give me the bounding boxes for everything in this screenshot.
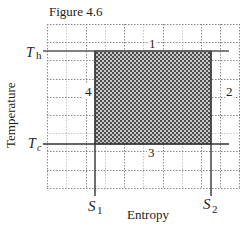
svg-text:S: S	[203, 196, 211, 212]
s2-label: S 2	[203, 196, 218, 215]
svg-text:h: h	[36, 49, 42, 61]
svg-text:T: T	[28, 136, 37, 151]
edge-label-4: 4	[85, 84, 92, 99]
svg-text:c: c	[37, 142, 42, 153]
tc-label: T c	[28, 136, 42, 153]
svg-text:2: 2	[212, 203, 218, 215]
figure-title: Figure 4.6	[49, 4, 103, 19]
x-axis-label: Entropy	[127, 207, 169, 222]
carnot-ts-diagram: Figure 4.6 Temperature Entropy T h T c S…	[0, 0, 248, 237]
svg-text:1: 1	[97, 204, 103, 216]
svg-text:T: T	[26, 45, 35, 60]
y-axis-label: Temperature	[3, 82, 18, 148]
svg-text:S: S	[88, 198, 96, 214]
edge-label-3: 3	[148, 145, 155, 160]
edge-label-2: 2	[226, 84, 233, 99]
s1-label: S 1	[88, 198, 103, 216]
cycle-area	[95, 51, 211, 144]
th-label: T h	[26, 45, 42, 61]
edge-label-1: 1	[149, 36, 156, 51]
